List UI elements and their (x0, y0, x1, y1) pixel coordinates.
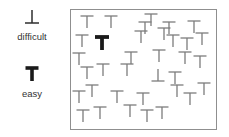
distractor-t-stimulus (137, 93, 150, 105)
distractor-t-stimulus (121, 64, 134, 76)
distractor-t-stimulus (73, 91, 86, 103)
distractor-t-stimulus (94, 107, 107, 119)
distractor-t-stimulus (198, 83, 211, 95)
distractor-t-stimulus (196, 33, 209, 45)
easy-target-icon (0, 66, 64, 84)
distractor-t-stimulus (171, 85, 184, 97)
distractor-t-stimulus (141, 110, 154, 122)
bold-t-glyph (26, 68, 39, 81)
stimulus-field (71, 10, 216, 129)
difficult-label: difficult (0, 31, 64, 42)
distractor-t-stimulus (105, 16, 118, 28)
distractor-t-stimulus (156, 107, 169, 119)
visual-search-figure: difficult easy (0, 0, 229, 137)
easy-label: easy (0, 88, 64, 99)
inverted-t-glyph (25, 10, 39, 23)
distractor-t-stimulus (111, 91, 124, 103)
distractor-t-stimulus (97, 64, 110, 76)
distractor-t-stimulus (73, 53, 86, 65)
distractor-t-stimulus (81, 67, 94, 79)
distractor-t-stimulus (167, 35, 180, 47)
difficult-target-icon (0, 8, 64, 26)
distractor-t-stimulus (181, 38, 194, 50)
distractor-t-stimulus (169, 72, 182, 84)
stimulus-box (70, 9, 217, 130)
distractor-t-stimulus (153, 50, 166, 62)
distractor-t-stimulus (184, 93, 197, 105)
distractor-t-stimulus (179, 52, 192, 64)
distractor-t-stimulus (76, 35, 89, 47)
easy-target-stimulus (95, 37, 109, 50)
distractor-t-stimulus (81, 16, 94, 28)
distractor-t-stimulus (77, 110, 90, 122)
distractor-t-stimulus (124, 105, 137, 117)
distractor-t-stimulus (145, 14, 158, 26)
distractor-t-stimulus (188, 21, 201, 33)
distractor-t-stimulus (194, 56, 207, 68)
difficult-target-stimulus (152, 69, 165, 81)
legend: difficult easy (0, 0, 64, 137)
distractor-t-stimulus (86, 85, 99, 97)
distractor-t-stimulus (125, 52, 138, 64)
